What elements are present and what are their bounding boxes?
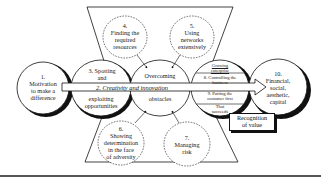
recognition-of-value-box: Recognition of value xyxy=(229,113,275,131)
node-3-label-top: 3. Spotting and xyxy=(80,67,124,81)
creativity-band-label: 2. Creativity and innovation xyxy=(96,84,168,91)
node-6-label: 6. Showing determination in the face of … xyxy=(97,125,145,160)
node-7-label: 7. Managing risk xyxy=(167,134,207,155)
center-label-bottom: obstacles xyxy=(135,95,185,102)
arrow-7-to-center xyxy=(172,111,179,123)
node-8-label: 8. Controlling the business xyxy=(196,75,244,85)
center-label-top: Overcoming xyxy=(135,72,185,79)
node-3-label-bottom: exploiting opportunities xyxy=(78,95,124,109)
node-4-label: 4. Finding the required resources xyxy=(105,22,145,50)
node-10-label: 10. Financial, social, aesthetic, capita… xyxy=(256,70,300,105)
node-1-label: 1. Motivation to make a difference xyxy=(22,73,64,101)
arrow-6-to-center xyxy=(135,111,146,123)
bottom-rule xyxy=(0,175,321,177)
node-8-label-top: Growing enterprise xyxy=(200,63,240,73)
node-9-label-text: 9. Putting the customer first xyxy=(196,91,244,101)
node-5-label: 5. Using networks extensively xyxy=(172,22,212,50)
